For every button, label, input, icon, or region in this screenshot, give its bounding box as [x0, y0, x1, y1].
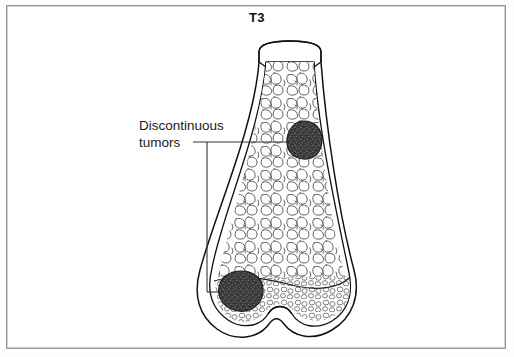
tumor-label-line1: Discontinuous: [139, 117, 224, 134]
tumor-label-line2: tumors: [139, 134, 180, 151]
bone-illustration: [0, 0, 514, 357]
lower-tumor: [219, 271, 263, 311]
figure-container: T3: [0, 0, 514, 357]
upper-tumor: [287, 121, 322, 159]
